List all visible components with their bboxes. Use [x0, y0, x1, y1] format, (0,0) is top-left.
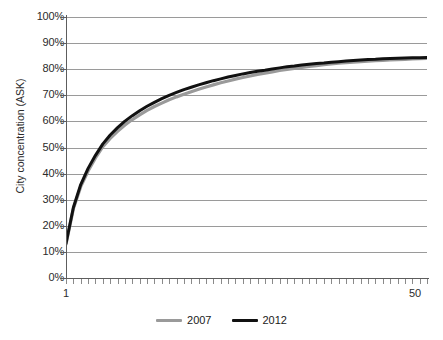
x-axis-tick [302, 279, 303, 284]
x-axis-tick [132, 279, 133, 284]
x-axis-tick [265, 279, 266, 284]
x-axis-tick [103, 279, 104, 284]
x-axis-tick [169, 279, 170, 284]
y-axis-title: City concentration (ASK) [14, 41, 26, 231]
x-axis-tick [316, 279, 317, 284]
x-axis-tick [235, 279, 236, 284]
legend-label-2012: 2012 [263, 314, 287, 326]
legend-item-2012: 2012 [232, 314, 287, 326]
x-axis-tick [383, 279, 384, 284]
x-axis-tick [294, 279, 295, 284]
x-axis-label-max: 50 [409, 287, 421, 299]
series-lines [66, 17, 427, 278]
x-axis-tick [309, 279, 310, 284]
x-axis-tick [88, 279, 89, 284]
x-axis-tick [258, 279, 259, 284]
x-axis-tick [162, 279, 163, 284]
x-axis-tick [339, 279, 340, 284]
x-axis-tick [405, 279, 406, 284]
x-axis-tick [353, 279, 354, 284]
x-axis-tick [346, 279, 347, 284]
legend-label-2007: 2007 [187, 314, 211, 326]
y-axis-tick-label: 50% [43, 141, 64, 153]
x-axis-tick [213, 279, 214, 284]
x-axis-tick [154, 279, 155, 284]
y-axis-tick-label: 0% [49, 271, 65, 283]
x-axis-tick [361, 279, 362, 284]
x-axis-tick [375, 279, 376, 284]
x-axis-tick [110, 279, 111, 284]
x-axis-tick [177, 279, 178, 284]
y-axis-tick-label: 100% [37, 10, 64, 22]
series-line-2007 [66, 59, 427, 245]
x-axis-tick [272, 279, 273, 284]
x-axis-tick [287, 279, 288, 284]
x-axis-tick [66, 279, 67, 284]
x-axis-tick [140, 279, 141, 284]
x-axis-tick [184, 279, 185, 284]
x-axis-tick [125, 279, 126, 284]
plot-area [66, 17, 427, 278]
x-axis-tick [147, 279, 148, 284]
x-axis-tick [199, 279, 200, 284]
x-axis-tick [398, 279, 399, 284]
y-axis-tick-label: 20% [43, 219, 64, 231]
legend-item-2007: 2007 [156, 314, 211, 326]
x-axis-tick [191, 279, 192, 284]
x-axis-tick [206, 279, 207, 284]
x-axis-tick [420, 279, 421, 284]
x-axis-tick [243, 279, 244, 284]
x-axis-tick [250, 279, 251, 284]
y-axis-tick-label: 30% [43, 193, 64, 205]
chart-container: City concentration (ASK) 0%10%20%30%40%5… [0, 0, 443, 340]
series-line-2012 [66, 57, 427, 243]
x-axis-tick [280, 279, 281, 284]
x-axis-tick [118, 279, 119, 284]
y-axis-tick-label: 40% [43, 167, 64, 179]
y-axis-tick-label: 10% [43, 245, 64, 257]
x-axis-tick [73, 279, 74, 284]
x-axis-tick [390, 279, 391, 284]
legend-swatch-2012 [232, 319, 258, 322]
x-axis-tick [412, 279, 413, 284]
x-axis-tick [228, 279, 229, 284]
chart-legend: 2007 2012 [0, 314, 443, 326]
y-axis-line [66, 15, 67, 280]
x-axis-label-min: 1 [63, 287, 69, 299]
legend-swatch-2007 [156, 319, 182, 322]
x-axis-tick [324, 279, 325, 284]
x-axis-tick [81, 279, 82, 284]
x-axis-tick [427, 279, 428, 284]
x-axis-tick [95, 279, 96, 284]
x-axis-tick [331, 279, 332, 284]
x-axis-tick [368, 279, 369, 284]
x-axis-tick [221, 279, 222, 284]
